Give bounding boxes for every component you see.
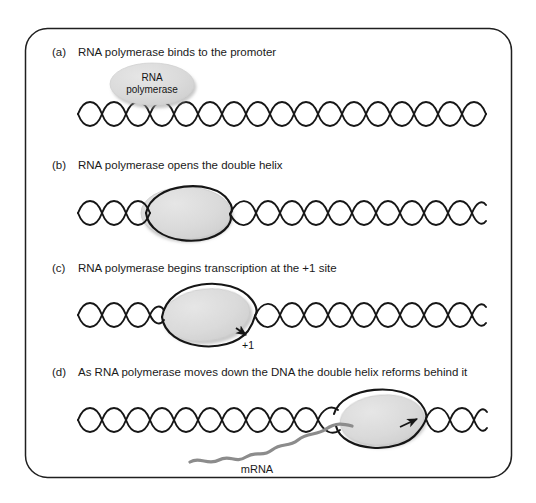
panel-a: (a) RNA polymerase binds to the promoter… — [52, 46, 486, 126]
panel-c-caption: RNA polymerase begins transcription at t… — [78, 262, 337, 274]
dna-strand-lower-a — [78, 102, 486, 126]
start-site-arrow-icon — [236, 328, 246, 335]
panel-d-caption: As RNA polymerase moves down the DNA the… — [78, 366, 468, 378]
panel-b-letter: (b) — [52, 159, 66, 171]
panel-c: (c) RNA polymerase begins transcription … — [52, 262, 486, 351]
dna-double-helix-a — [78, 102, 486, 126]
dna-strand-upper-a — [78, 102, 486, 126]
dna-double-helix-d — [78, 389, 487, 447]
dna-strand-lower-b-left — [78, 201, 150, 225]
rna-polymerase-label-line1: RNA — [141, 72, 162, 83]
rna-polymerase-a: RNA polymerase — [110, 63, 194, 105]
dna-double-helix-c — [78, 284, 486, 347]
dna-double-helix-b — [78, 186, 486, 241]
panel-a-letter: (a) — [52, 46, 66, 58]
panel-a-caption: RNA polymerase binds to the promoter — [78, 46, 276, 58]
transcription-figure: (a) RNA polymerase binds to the promoter… — [0, 0, 536, 503]
dna-strand-upper-b-left — [78, 201, 150, 225]
panel-d: (d) As RNA polymerase moves down the DNA… — [52, 366, 487, 475]
panel-b-caption: RNA polymerase opens the double helix — [78, 159, 283, 171]
panel-d-letter: (d) — [52, 366, 66, 378]
mrna-label: mRNA — [241, 463, 274, 475]
figure-canvas: (a) RNA polymerase binds to the promoter… — [0, 0, 536, 503]
panel-c-letter: (c) — [52, 262, 66, 274]
panel-b: (b) RNA polymerase opens the double heli… — [52, 159, 486, 241]
rna-polymerase-body-b — [141, 187, 231, 239]
rna-polymerase-b — [141, 187, 231, 239]
figure-border — [26, 29, 512, 478]
rna-polymerase-label-line2: polymerase — [126, 84, 178, 95]
start-site-label: +1 — [242, 339, 254, 351]
